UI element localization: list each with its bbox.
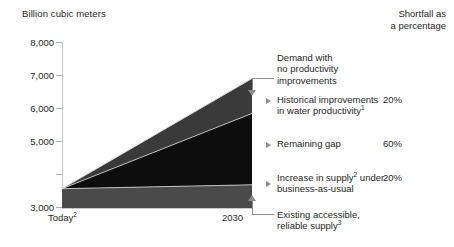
- x-today-superscript: 2: [73, 211, 77, 218]
- annotation-supply-increase-line1a: Increase in supply: [277, 172, 354, 183]
- supply-increase-marker-triangle-icon: [266, 181, 271, 187]
- y-tick-label-6000: 6,000: [30, 103, 54, 114]
- annotation-demand-line1: Demand with: [277, 52, 332, 63]
- y-tick-label-8000: 8,000: [30, 37, 54, 48]
- annotation-historical-superscript: 1: [361, 104, 365, 111]
- annotation-demand-line3: improvements: [277, 75, 337, 86]
- annotation-existing-line1: Existing accessible,: [277, 209, 360, 220]
- shortfall-pct-gap: 60%: [383, 138, 402, 149]
- y-axis-unit-label: Billion cubic meters: [22, 8, 106, 19]
- x-tick-label-2030: 2030: [222, 212, 243, 223]
- y-tick-label-3000: 3,000: [30, 202, 54, 213]
- annotation-supply-increase: Increase in supply2 under business-as-us…: [277, 172, 384, 195]
- annotation-gap: Remaining gap: [277, 138, 341, 149]
- annotation-gap-line1: Remaining gap: [277, 138, 341, 149]
- x-axis-line: [62, 208, 252, 209]
- shortfall-pct-historical: 20%: [383, 94, 402, 105]
- existing-supply-leader-vertical: [252, 201, 253, 214]
- shortfall-column-header: Shortfall as a percentage: [391, 8, 446, 31]
- annotation-demand: Demand with no productivity improvements: [277, 52, 338, 86]
- chart-root: Billion cubic meters Shortfall as a perc…: [0, 0, 454, 247]
- historical-marker-triangle-icon: [266, 98, 271, 104]
- x-today-text: Today: [48, 212, 73, 223]
- annotation-existing-superscript: 3: [338, 219, 342, 226]
- demand-arrow-down-icon: [248, 90, 256, 96]
- annotation-supply-increase-line2: business-as-usual: [277, 183, 354, 194]
- x-tick-label-today: Today2: [48, 212, 77, 223]
- stacked-area-plot: [62, 42, 252, 208]
- annotation-historical-line2: in water productivity: [277, 105, 361, 116]
- gap-marker-triangle-icon: [266, 142, 271, 148]
- shortfall-pct-supply-increase: 20%: [383, 172, 402, 183]
- y-tick-label-7000: 7,000: [30, 70, 54, 81]
- shortfall-header-line2: a percentage: [391, 20, 446, 31]
- annotation-existing-line2: reliable supply: [277, 220, 338, 231]
- annotation-existing-supply: Existing accessible, reliable supply3: [277, 209, 360, 232]
- annotation-demand-line2: no productivity: [277, 63, 338, 74]
- existing-supply-leader-horizontal: [252, 214, 274, 215]
- annotation-historical: Historical improvements in water product…: [277, 94, 378, 117]
- y-tick-label-5000: 5,000: [30, 136, 54, 147]
- shortfall-header-line1: Shortfall as: [398, 8, 446, 19]
- demand-leader-horizontal: [252, 78, 274, 79]
- annotation-supply-increase-line1b: under: [357, 172, 384, 183]
